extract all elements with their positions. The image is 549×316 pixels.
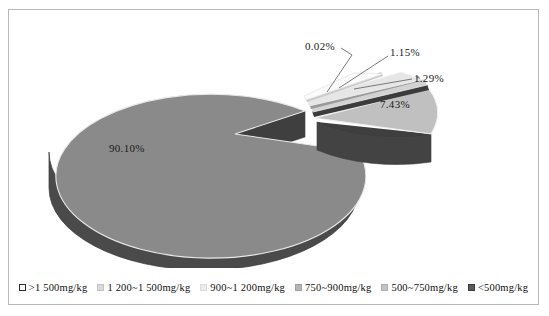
- chart-legend: >1 500mg/kg 1 200~1 500mg/kg 900~1 200mg…: [9, 272, 538, 302]
- pie-label-gt1500: 0.02%: [305, 40, 335, 52]
- chart-frame: 0.02% 1.15% 1.29% 7.43% 90.10% >1 500mg/…: [8, 9, 539, 305]
- legend-item-900-1200[interactable]: 900~1 200mg/kg: [200, 282, 285, 293]
- pie-chart-plot-area: 0.02% 1.15% 1.29% 7.43% 90.10%: [9, 10, 538, 268]
- legend-swatch-500-750: [381, 284, 388, 291]
- legend-label-750-900: 750~900mg/kg: [305, 282, 371, 293]
- legend-swatch-750-900: [295, 284, 302, 291]
- legend-swatch-gt1500: [19, 284, 26, 291]
- legend-item-gt1500[interactable]: >1 500mg/kg: [19, 282, 88, 293]
- legend-item-lt500[interactable]: <500mg/kg: [468, 282, 528, 293]
- legend-swatch-1200-1500: [97, 284, 104, 291]
- legend-label-lt500: <500mg/kg: [478, 282, 528, 293]
- pie-label-900-1200: 1.29%: [414, 72, 444, 84]
- pie-label-lt500: 90.10%: [109, 142, 145, 154]
- pie-chart-graphic: [9, 10, 538, 268]
- legend-item-750-900[interactable]: 750~900mg/kg: [295, 282, 371, 293]
- legend-item-500-750[interactable]: 500~750mg/kg: [381, 282, 457, 293]
- legend-swatch-900-1200: [200, 284, 207, 291]
- legend-label-gt1500: >1 500mg/kg: [29, 282, 88, 293]
- legend-label-1200-1500: 1 200~1 500mg/kg: [107, 282, 190, 293]
- legend-label-500-750: 500~750mg/kg: [391, 282, 457, 293]
- legend-swatch-lt500: [468, 284, 475, 291]
- pie-label-750-900: 7.43%: [380, 98, 410, 110]
- legend-item-1200-1500[interactable]: 1 200~1 500mg/kg: [97, 282, 190, 293]
- legend-label-900-1200: 900~1 200mg/kg: [210, 282, 285, 293]
- pie-label-1200-1500: 1.15%: [390, 46, 420, 58]
